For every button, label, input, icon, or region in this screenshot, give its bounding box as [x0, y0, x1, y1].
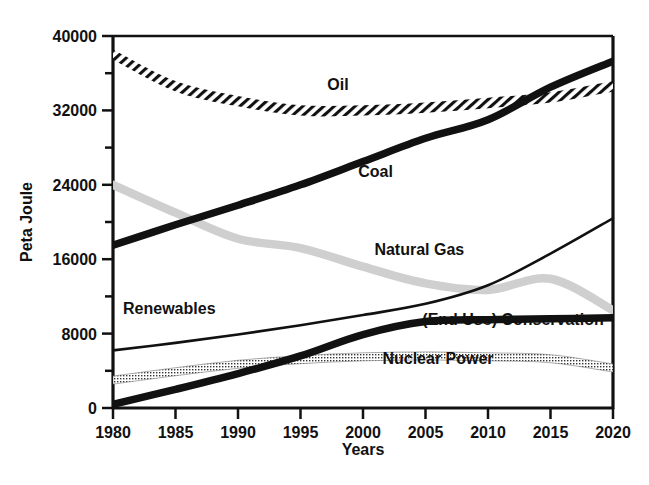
x-tick-label: 1980: [95, 424, 131, 441]
series-annotation: Natural Gas: [374, 241, 464, 258]
x-tick-label: 1985: [158, 424, 194, 441]
y-tick-label: 32000: [53, 102, 98, 119]
x-axis-tick-labels: 198019851990199520002005201020152020: [95, 424, 631, 441]
x-tick-label: 2010: [470, 424, 506, 441]
x-tick-label: 2020: [595, 424, 631, 441]
y-tick-label: 40000: [53, 28, 98, 45]
x-tick-label: 2015: [533, 424, 569, 441]
series-annotation: Oil: [327, 76, 348, 93]
y-tick-label: 0: [88, 400, 97, 417]
x-tick-label: 2005: [408, 424, 444, 441]
chart-container: 0800016000240003200040000 19801985199019…: [0, 0, 649, 485]
x-tick-label: 1990: [220, 424, 256, 441]
series-annotation: Renewables: [123, 300, 216, 317]
y-tick-label: 8000: [61, 326, 97, 343]
y-axis-title: Peta Joule: [18, 182, 35, 262]
x-tick-label: 2000: [345, 424, 381, 441]
series-annotation: (End Use) Conservation: [422, 311, 603, 328]
y-tick-label: 16000: [53, 251, 98, 268]
x-tick-label: 1995: [283, 424, 319, 441]
y-tick-label: 24000: [53, 177, 98, 194]
series-annotation: Nuclear Power: [382, 350, 493, 367]
x-axis-title: Years: [342, 441, 385, 458]
series-annotation: Coal: [358, 163, 393, 180]
energy-projection-chart: 0800016000240003200040000 19801985199019…: [0, 0, 649, 485]
